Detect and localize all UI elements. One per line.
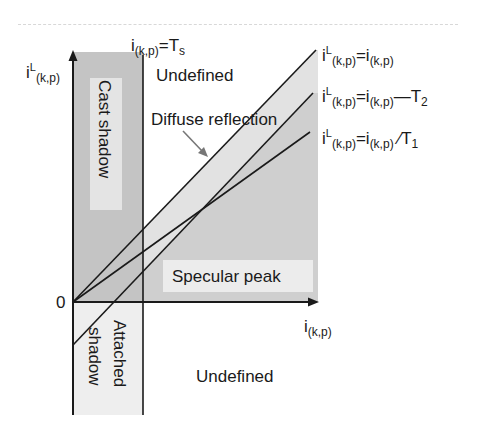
y-axis-label: iL(k,p)	[26, 62, 60, 84]
x-axis-label: i(k,p)	[304, 318, 332, 338]
eq-rhs-sub: (k,p)	[370, 54, 394, 68]
eq-tail-sub: 2	[421, 95, 428, 109]
specular-peak-label: Specular peak	[172, 268, 281, 285]
diffuse-pointer-arrow	[183, 131, 203, 152]
eq-rhs: =i	[356, 87, 370, 106]
eq-rhs: =i	[356, 129, 370, 148]
x-label-sub: (k,p)	[308, 325, 332, 339]
diffuse-reflection-label: Diffuse reflection	[151, 111, 277, 128]
y-label-sub: (k,p)	[36, 71, 60, 85]
eq-rhs: =i	[356, 46, 370, 65]
threshold-label: i(k,p)=Ts	[131, 37, 185, 57]
cast-shadow-label: Cast shadow	[96, 80, 113, 178]
origin-label: 0	[56, 294, 65, 311]
line-minus-t2-label: iL(k,p)=i(k,p)—T2	[322, 86, 428, 108]
eq-sub: (k,p)	[332, 137, 356, 151]
attached-shadow-label-1: Attached	[111, 320, 128, 387]
undefined-bottom-label: Undefined	[196, 368, 274, 385]
eq-rhs-sub: (k,p)	[370, 95, 394, 109]
eq-sub: (k,p)	[332, 54, 356, 68]
eq-tail: —T	[394, 87, 421, 106]
eq-sub: (k,p)	[332, 95, 356, 109]
undefined-top-label: Undefined	[156, 67, 234, 84]
line-identity-label: iL(k,p)=i(k,p)	[322, 45, 394, 67]
threshold-rest-sub: s	[179, 44, 185, 58]
attached-shadow-label-2: shadow	[86, 327, 103, 386]
attached-shadow-region	[73, 302, 143, 415]
line-div-t1-label: iL(k,p)=i(k,p) ∕T1	[322, 128, 418, 150]
eq-tail: ∕T	[394, 129, 412, 148]
eq-tail-sub: 1	[412, 137, 419, 151]
threshold-rest: =T	[159, 36, 179, 55]
eq-rhs-sub: (k,p)	[370, 137, 394, 151]
threshold-sub: (k,p)	[135, 44, 159, 58]
